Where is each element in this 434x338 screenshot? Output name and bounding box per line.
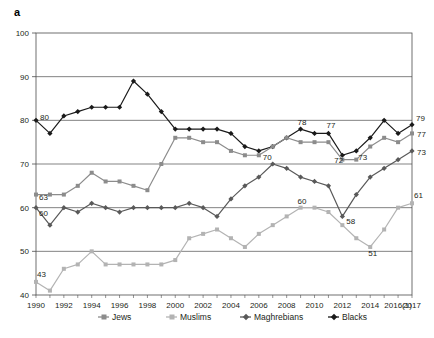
x-tick-label: 2008 [278,301,296,310]
y-tick-label: 50 [20,247,29,256]
x-tick-label: 1994 [83,301,101,310]
x-tick-label: 2002 [194,301,212,310]
x-tick-label: 1996 [111,301,129,310]
point-label: 63 [39,193,48,202]
point-label: 43 [37,270,46,279]
x-tick-label: 1992 [55,301,73,310]
point-label: 61 [414,191,423,200]
point-label: 58 [346,217,355,226]
legend-item-jews[interactable]: Jews [98,312,131,322]
legend-item-maghrebians[interactable]: Maghrebians [240,312,303,322]
y-tick-label: 60 [20,204,29,213]
legend-label: Maghrebians [254,312,303,322]
y-tick-label: 100 [16,29,30,38]
point-label: 73 [358,153,367,162]
legend-label: Blacks [342,312,367,322]
chart-container: a 405060708090100 1990199219941996199820… [0,0,434,338]
y-tick-label: 90 [20,73,29,82]
x-tick-label: 2010 [306,301,324,310]
panel-label: a [14,6,20,18]
x-tick-label: 2014 [361,301,379,310]
y-tick-label: 80 [20,116,29,125]
x-tick-label: 1990 [27,301,45,310]
point-label: 80 [40,113,49,122]
legend-item-blacks[interactable]: Blacks [328,312,367,322]
x-axis-ticks: 1990199219941996199820002002200420062008… [27,295,421,310]
x-tick-label: 1998 [139,301,157,310]
x-tick-label: 2000 [166,301,184,310]
y-axis-ticks: 405060708090100 [16,29,36,300]
line-chart: 405060708090100 199019921994199619982000… [0,0,434,338]
x-tick-label: 2004 [222,301,240,310]
point-label: 77 [326,121,335,130]
chart-legend: JewsMuslimsMaghrebiansBlacks [98,312,367,322]
point-label: 79 [416,114,425,123]
y-tick-label: 70 [20,160,29,169]
point-label: 51 [368,249,377,258]
x-tick-label: 2012 [333,301,351,310]
point-label: 60 [39,209,48,218]
legend-label: Jews [112,312,131,322]
legend-label: Muslims [180,312,211,322]
legend-item-muslims[interactable]: Muslims [166,312,211,322]
point-label: 78 [298,118,307,127]
point-label: 73 [417,148,426,157]
point-label: 70 [263,153,272,162]
y-tick-label: 40 [20,291,29,300]
point-label: 77 [417,130,426,139]
point-label: 72 [334,156,343,165]
x-tick-label: 2006 [250,301,268,310]
point-label: 60 [298,197,307,206]
x-tick-label: 2017 [403,301,421,310]
